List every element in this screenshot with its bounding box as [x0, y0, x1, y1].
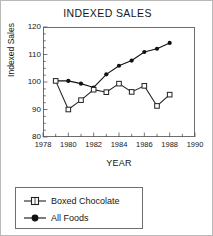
y-tick-label: 100 — [15, 78, 41, 86]
y-axis-label: Indexed Sales — [6, 12, 16, 88]
y-tick-label: 110 — [15, 51, 41, 59]
legend-item-all-foods: All Foods — [22, 209, 142, 226]
chart-title: INDEXED SALES — [1, 7, 213, 19]
legend-label: All Foods — [51, 213, 89, 223]
y-tick-label: 120 — [15, 23, 41, 31]
y-tick-label: 90 — [15, 106, 41, 114]
x-tick-label: 1990 — [180, 140, 210, 149]
open-square-marker-icon — [22, 194, 48, 208]
plot-area — [43, 27, 195, 137]
legend-label: Boxed Chocolate — [51, 196, 120, 206]
chart-figure: INDEXED SALES 120 110 100 90 80 Indexed … — [0, 0, 213, 236]
x-axis-label: YEAR — [43, 158, 195, 168]
legend-item-boxed-chocolate: Boxed Chocolate — [22, 192, 142, 209]
filled-circle-marker-icon — [22, 211, 48, 225]
x-axis-tick-labels: 1978 1980 1982 1984 1986 1988 1990 — [43, 140, 195, 152]
chart-legend: Boxed Chocolate All Foods — [15, 187, 143, 229]
